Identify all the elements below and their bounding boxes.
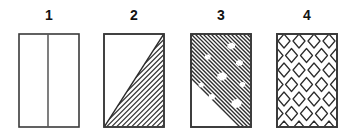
figure-swatch-2 — [103, 33, 165, 128]
figure-swatch-1 — [18, 33, 80, 128]
figure-cell-1: 1 — [4, 0, 94, 139]
figure-cell-3: 3 — [176, 0, 266, 139]
figure-cell-4: 4 — [262, 0, 352, 139]
figure-cell-2: 2 — [89, 0, 179, 139]
figure-swatch-4 — [276, 33, 338, 128]
figure-label-2: 2 — [89, 7, 179, 23]
figure-label-4: 4 — [262, 7, 352, 23]
figure-plate: 1 2 — [0, 0, 361, 139]
figure-label-3: 3 — [176, 7, 266, 23]
figure-swatch-3 — [190, 33, 252, 128]
figure-label-1: 1 — [4, 7, 94, 23]
